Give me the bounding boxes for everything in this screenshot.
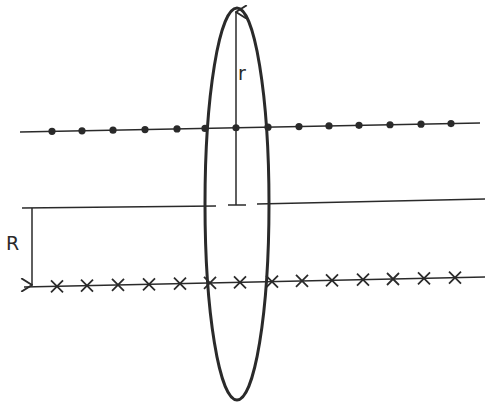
wire-dot-marker <box>325 122 332 129</box>
axis-line-right <box>257 199 485 204</box>
wire-dot-marker <box>173 125 180 132</box>
wire-dot-marker <box>417 121 424 128</box>
wire-dot-marker <box>78 127 85 134</box>
axis-line <box>22 199 485 208</box>
axis-line-left <box>22 206 216 208</box>
diagram-canvas: r R <box>0 0 485 411</box>
wire-dot-marker <box>355 122 362 129</box>
distance-R-label: R <box>6 232 19 254</box>
lower-wire <box>24 272 485 293</box>
upper-wire-line <box>20 123 480 132</box>
wire-dot-marker <box>447 120 454 127</box>
wire-dot-marker <box>109 127 116 134</box>
wire-dot-marker <box>295 123 302 130</box>
lower-wire-line <box>24 277 485 287</box>
wire-dot-marker <box>48 128 55 135</box>
radius-r-label: r <box>238 62 246 84</box>
wire-dot-marker <box>386 121 393 128</box>
upper-wire <box>20 120 480 135</box>
wire-dot-marker <box>141 126 148 133</box>
